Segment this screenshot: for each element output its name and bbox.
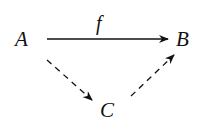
dashed-arrow-a-to-c: [47, 60, 92, 100]
node-c-label: C: [100, 100, 114, 121]
edge-f-label: f: [96, 13, 102, 33]
node-b-label: B: [176, 29, 189, 50]
commutative-diagram: A B C f: [0, 0, 202, 130]
dashed-arrow-c-to-b: [131, 55, 174, 96]
node-a-label: A: [15, 29, 28, 50]
